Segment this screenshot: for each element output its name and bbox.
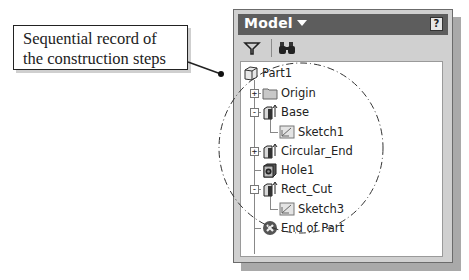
panel-title: Model <box>244 15 293 31</box>
hole-feature-icon <box>262 162 278 178</box>
help-button[interactable]: ? <box>430 17 443 31</box>
folder-icon <box>262 85 278 101</box>
tree-item-label: Origin <box>281 86 316 100</box>
tree-connector <box>254 228 261 229</box>
sketch-icon <box>279 201 295 217</box>
tree-item-end-of-part[interactable]: End of Part <box>262 219 344 237</box>
callout-line-1: Sequential record of <box>23 29 187 49</box>
find-button[interactable] <box>277 39 297 57</box>
tree-item-label: Hole1 <box>281 163 314 177</box>
tree-item-sketch1[interactable]: Sketch1 <box>279 123 344 141</box>
tree-item-label: Circular_End <box>281 144 353 158</box>
tree-item-label: Rect_Cut <box>281 182 332 196</box>
tree-item-circular-end[interactable]: Circular_End <box>262 142 353 160</box>
callout-leader-line <box>188 62 221 74</box>
callout-box: Sequential record of the construction st… <box>13 25 188 70</box>
tree-item-sketch3[interactable]: Sketch3 <box>279 200 344 218</box>
tree-item-origin[interactable]: Origin <box>262 84 316 102</box>
panel-titlebar: Model ? <box>238 14 448 35</box>
extrude-feature-icon <box>262 143 278 159</box>
tree-item-part1[interactable]: Part1 <box>243 64 292 82</box>
tree-item-label: Base <box>281 105 309 119</box>
binoculars-icon <box>277 39 299 57</box>
tree-connector <box>270 132 278 133</box>
leader-dot <box>218 71 224 77</box>
extrude-feature-icon <box>262 104 278 120</box>
browser-toolbar <box>238 37 448 59</box>
tree-item-label: Sketch1 <box>298 125 344 139</box>
tree-item-rect-cut[interactable]: Rect_Cut <box>262 180 332 198</box>
tree-item-hole1[interactable]: Hole1 <box>262 161 314 179</box>
model-dropdown[interactable]: Model <box>244 15 307 31</box>
collapse-rect-cut-toggle[interactable]: - <box>250 185 259 194</box>
part-cube-icon <box>243 65 259 81</box>
callout-line-2: the construction steps <box>23 49 187 69</box>
tree-item-label: End of Part <box>281 221 344 235</box>
tree-connector <box>254 170 261 171</box>
end-of-part-icon <box>262 220 278 236</box>
sketch-icon <box>279 124 295 140</box>
expand-origin-toggle[interactable]: + <box>250 89 259 98</box>
tree-connector <box>270 209 278 210</box>
extrude-feature-icon <box>262 181 278 197</box>
toolbar-separator <box>271 39 272 57</box>
tree-item-base[interactable]: Base <box>262 103 309 121</box>
tree-item-label: Sketch3 <box>298 202 344 216</box>
filter-icon <box>242 39 262 57</box>
expand-circular-end-toggle[interactable]: + <box>250 147 259 156</box>
collapse-base-toggle[interactable]: - <box>250 108 259 117</box>
triangle-down-icon <box>297 20 307 26</box>
tree-item-label: Part1 <box>262 66 292 80</box>
filter-button[interactable] <box>242 39 262 57</box>
model-tree: + - + - Part1 Origin Base <box>240 61 443 257</box>
model-browser-panel: Model ? <box>233 9 453 263</box>
